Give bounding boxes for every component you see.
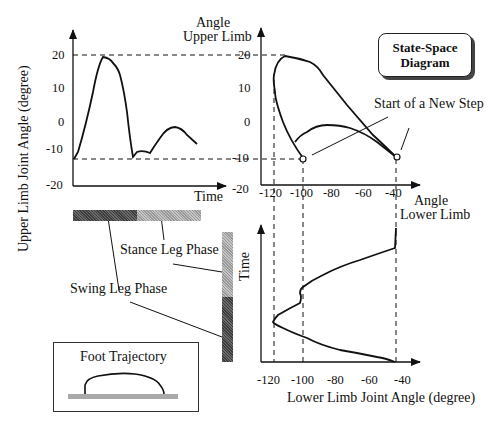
stance-leg-phase-label: Stance Leg Phase (120, 243, 219, 257)
ss-xtick-neg40: -40 (385, 187, 402, 200)
upper-plot-y-label: Upper Limb Joint Angle (degree) (17, 65, 31, 252)
lower-xtick-neg120: -120 (257, 374, 280, 387)
lower-limb-curve (273, 228, 396, 362)
upper-ytick-20: 20 (52, 49, 65, 62)
lower-xtick-neg100: -100 (291, 374, 314, 387)
ss-ytick-neg20: -20 (232, 183, 249, 196)
annotation-pointer-right (401, 128, 409, 150)
lower-xtick-neg80: -80 (327, 374, 344, 387)
lower-plot-x-label: Lower Limb Joint Angle (degree) (287, 391, 475, 405)
start-point-right (394, 154, 400, 160)
state-space-y-label-line2: Upper Limb (183, 30, 252, 44)
upper-ytick-10: 10 (52, 82, 65, 95)
horizontal-swing-phase-bar (73, 210, 137, 221)
state-space-return-curve (295, 125, 396, 157)
ss-xtick-neg120: -120 (259, 187, 282, 200)
state-space-x-label-line1: Angle (414, 194, 448, 208)
ss-xtick-neg80: -80 (323, 187, 340, 200)
ss-xtick-neg100: -100 (290, 187, 313, 200)
vertical-swing-phase-bar (222, 297, 233, 362)
ss-ytick-10: 10 (238, 82, 251, 95)
horizontal-stance-phase-bar (137, 210, 201, 221)
ss-ytick-neg10: -10 (232, 152, 249, 165)
state-space-title-box: State-Space Diagram (378, 33, 472, 77)
upper-ytick-0: 0 (58, 116, 64, 129)
upper-plot-x-label: Time (194, 190, 223, 204)
ss-ytick-20: 20 (238, 49, 251, 62)
upper-plot-axes (73, 30, 226, 186)
state-space-title-line1: State-Space (393, 40, 458, 55)
lower-xtick-neg40: -40 (394, 374, 411, 387)
lower-xtick-neg60: -60 (361, 374, 378, 387)
reference-dashed-lines (73, 55, 396, 362)
upper-limb-curve (74, 57, 197, 159)
state-space-title-line2: Diagram (400, 55, 449, 70)
start-new-step-annotation: Start of a New Step (374, 97, 484, 111)
annotation-pointer-left (312, 117, 388, 155)
ss-ytick-0: 0 (244, 116, 250, 129)
state-space-x-label-line2: Lower Limb (400, 208, 470, 222)
phase-pointer-lines (108, 216, 222, 337)
swing-leg-phase-label: Swing Leg Phase (70, 282, 167, 296)
lower-plot-time-label: Time (238, 252, 252, 281)
ss-xtick-neg60: -60 (355, 187, 372, 200)
upper-ytick-neg20: -20 (46, 179, 63, 192)
vertical-stance-phase-bar (222, 232, 233, 297)
upper-ytick-neg10: -10 (46, 143, 63, 156)
start-point-left (300, 156, 306, 162)
state-space-y-label-line1: Angle (196, 16, 230, 30)
foot-trajectory-title: Foot Trajectory (80, 350, 167, 364)
